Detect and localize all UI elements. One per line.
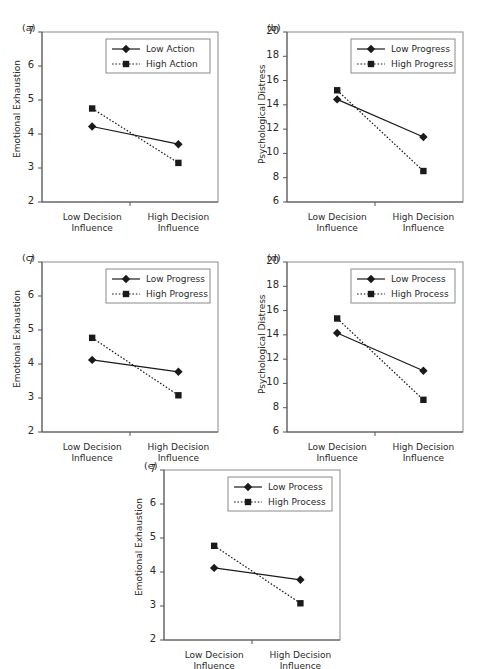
y-tick-label: 8 xyxy=(263,402,279,412)
y-tick-label: 12 xyxy=(263,123,279,133)
y-tick-label: 6 xyxy=(263,196,279,206)
y-tick-label: 6 xyxy=(263,426,279,436)
y-tick-label: 7 xyxy=(140,464,156,474)
x-tick-line-2: Influence xyxy=(164,661,264,669)
y-tick-label: 16 xyxy=(263,305,279,315)
x-tick-label: High DecisionInfluence xyxy=(373,442,473,464)
y-tick-label: 20 xyxy=(263,256,279,266)
y-tick-label: 2 xyxy=(140,634,156,644)
y-tick-label: 20 xyxy=(263,26,279,36)
y-tick-label: 3 xyxy=(18,162,34,172)
y-tick-label: 3 xyxy=(140,600,156,610)
y-tick-label: 14 xyxy=(263,99,279,109)
legend-label: Low Action xyxy=(146,44,195,54)
x-tick-line-1: Low Decision xyxy=(287,212,387,223)
figure-panel-grid: (a) Emotional Exhaustion Low ActionHigh … xyxy=(0,0,490,669)
legend-label: Low Progress xyxy=(391,44,450,54)
legend-label: Low Process xyxy=(391,274,446,284)
y-tick-label: 3 xyxy=(18,392,34,402)
x-tick-line-2: Influence xyxy=(373,453,473,464)
panel-a-plot: Low ActionHigh Action xyxy=(0,0,245,230)
panel-d-plot: Low ProcessHigh Process xyxy=(245,230,490,460)
x-tick-line-1: High Decision xyxy=(250,650,350,661)
y-tick-label: 6 xyxy=(18,290,34,300)
y-tick-label: 6 xyxy=(18,60,34,70)
panel-b-plot: Low ProgressHigh Progress xyxy=(245,0,490,230)
panel-e-plot: Low ProcessHigh Process xyxy=(122,438,367,668)
panel-c-plot: Low ProgressHigh Progress xyxy=(0,230,245,460)
y-tick-label: 2 xyxy=(18,426,34,436)
y-tick-label: 4 xyxy=(140,566,156,576)
x-tick-label: Low DecisionInfluence xyxy=(164,650,264,669)
y-tick-label: 18 xyxy=(263,280,279,290)
legend-label: Low Progress xyxy=(146,274,205,284)
x-tick-label: High DecisionInfluence xyxy=(250,650,350,669)
panel-c: (c) Emotional Exhaustion Low ProgressHig… xyxy=(0,230,245,460)
legend-label: High Progress xyxy=(146,289,208,299)
x-tick-line-1: High Decision xyxy=(128,212,228,223)
legend-label: High Progress xyxy=(391,59,453,69)
y-tick-label: 7 xyxy=(18,256,34,266)
x-tick-line-1: Low Decision xyxy=(42,212,142,223)
legend-label: High Action xyxy=(146,59,198,69)
legend-label: High Process xyxy=(391,289,449,299)
y-tick-label: 12 xyxy=(263,353,279,363)
y-tick-label: 4 xyxy=(18,128,34,138)
legend-label: High Process xyxy=(268,497,326,507)
y-tick-label: 16 xyxy=(263,75,279,85)
y-tick-label: 2 xyxy=(18,196,34,206)
panel-b: (b) Psychological Distress Low ProgressH… xyxy=(245,0,490,230)
y-tick-label: 5 xyxy=(18,324,34,334)
x-tick-line-1: High Decision xyxy=(373,442,473,453)
y-tick-label: 10 xyxy=(263,377,279,387)
x-tick-line-1: High Decision xyxy=(373,212,473,223)
legend-label: Low Process xyxy=(268,482,323,492)
y-tick-label: 18 xyxy=(263,50,279,60)
panel-e: (e) Emotional Exhaustion Low ProcessHigh… xyxy=(122,452,367,669)
y-tick-label: 7 xyxy=(18,26,34,36)
x-tick-line-2: Influence xyxy=(250,661,350,669)
y-tick-label: 6 xyxy=(140,498,156,508)
y-tick-label: 5 xyxy=(140,532,156,542)
panel-a: (a) Emotional Exhaustion Low ActionHigh … xyxy=(0,0,245,230)
x-tick-line-1: Low Decision xyxy=(164,650,264,661)
y-tick-label: 8 xyxy=(263,172,279,182)
y-tick-label: 10 xyxy=(263,147,279,157)
y-tick-label: 5 xyxy=(18,94,34,104)
y-tick-label: 14 xyxy=(263,329,279,339)
panel-d: (d) Psychological Distress Low ProcessHi… xyxy=(245,230,490,460)
y-tick-label: 4 xyxy=(18,358,34,368)
